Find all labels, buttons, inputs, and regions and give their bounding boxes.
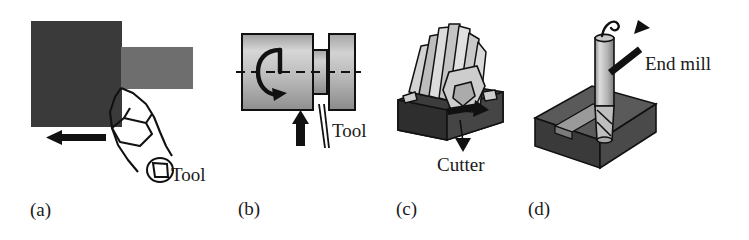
feed-arrow-icon	[292, 110, 309, 146]
end-mill-tool-icon	[595, 34, 614, 143]
panel-a-shaping: Tool (a)	[0, 0, 225, 240]
panel-caption-c: (c)	[396, 199, 417, 218]
tool-insert-icon	[147, 158, 173, 182]
panel-caption-d: (d)	[528, 199, 550, 218]
cutter-label: Cutter	[437, 155, 485, 174]
tool-label: Tool	[171, 165, 206, 184]
panel-c-slab-milling: Cutter (c)	[385, 0, 530, 240]
cutter-leader-arrowhead-icon	[455, 138, 471, 152]
tool-pointer-icon	[319, 104, 329, 148]
panel-d-illustration	[530, 0, 749, 240]
panel-d-end-milling: End mill (d)	[530, 0, 749, 240]
panel-b-turning: Tool (b)	[225, 0, 385, 240]
chip-bar	[121, 47, 193, 89]
machining-operations-figure: Tool (a)	[0, 0, 749, 240]
end-mill-label: End mill	[645, 54, 711, 73]
panel-caption-a: (a)	[30, 200, 51, 219]
workpiece-block	[31, 21, 122, 127]
tool-label: Tool	[332, 121, 367, 140]
feed-arrow-icon	[46, 130, 106, 145]
panel-caption-b: (b)	[238, 199, 260, 218]
